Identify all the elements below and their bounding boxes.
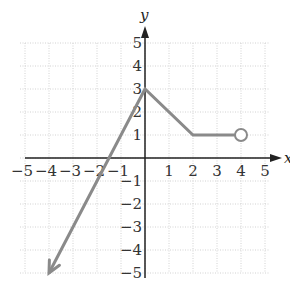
x-tick-label: −3 xyxy=(59,162,81,180)
x-tick-label: 4 xyxy=(236,162,246,180)
x-tick-label: 2 xyxy=(188,162,198,180)
y-tick-label: −3 xyxy=(120,218,142,236)
y-tick-label: 1 xyxy=(132,126,142,144)
y-tick-label: 4 xyxy=(132,57,142,75)
x-tick-label: −5 xyxy=(11,162,33,180)
function-graph: x y −5−4−3−2−112345 54321−1−2−3−4−5 xyxy=(0,0,290,289)
curve-line xyxy=(49,89,235,273)
x-axis-arrow-icon xyxy=(270,154,282,162)
x-axis-label: x xyxy=(284,149,290,167)
y-axis-label: y xyxy=(139,6,149,24)
y-axis-arrow-icon xyxy=(141,26,149,38)
y-tick-label: 5 xyxy=(132,34,142,52)
y-tick-label: −4 xyxy=(120,241,142,259)
x-tick-label: 1 xyxy=(164,162,174,180)
x-tick-label: −4 xyxy=(35,162,57,180)
axes: x y xyxy=(25,6,290,278)
x-tick-label: 5 xyxy=(260,162,270,180)
y-tick-label: −1 xyxy=(120,172,142,190)
y-tick-label: −5 xyxy=(120,264,142,282)
y-tick-label: −2 xyxy=(120,195,142,213)
open-circle-endpoint xyxy=(235,129,247,141)
x-tick-label: 3 xyxy=(212,162,222,180)
